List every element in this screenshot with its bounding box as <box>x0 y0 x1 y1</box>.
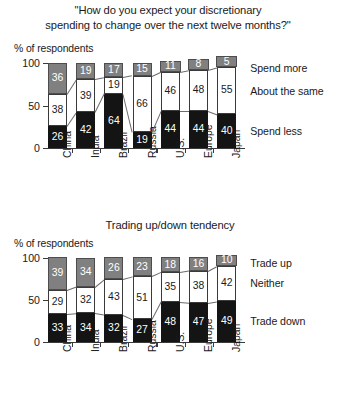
x-axis-label-china: China <box>62 131 73 158</box>
x-axis-label-brazil: Brazil <box>118 132 129 158</box>
connector-bottom-boundary <box>95 313 104 316</box>
chart-title-top: "How do you expect your discretionary sp… <box>0 3 340 32</box>
connector-top-boundary <box>208 266 218 272</box>
legend-label-top: Spend more <box>250 62 307 74</box>
segment-middle: 48 <box>189 70 208 111</box>
connector-top-boundary <box>180 70 189 73</box>
segment-middle: 35 <box>161 272 180 301</box>
segment-top: 23 <box>133 257 152 276</box>
x-axis-tick <box>72 343 73 347</box>
connector-top-boundary <box>123 76 132 79</box>
segment-top: 11 <box>160 61 181 72</box>
connector-top-boundary <box>151 72 161 77</box>
legend-label-top: Trade up <box>250 257 292 269</box>
y-axis-tick-label: 50 <box>28 294 40 306</box>
segment-top: 5 <box>216 56 237 67</box>
connector-top-boundary <box>95 77 104 80</box>
x-axis-label-japan: Japan <box>231 324 242 352</box>
segment-middle: 38 <box>189 271 208 303</box>
segment-top: 8 <box>188 59 209 70</box>
segment-middle: 66 <box>133 76 152 132</box>
y-axis-tick-label: 0 <box>34 336 40 348</box>
legend-label-middle: Neither <box>250 277 284 289</box>
connector-bottom-boundary <box>123 315 133 320</box>
segment-middle: 43 <box>104 279 123 315</box>
segment-top: 39 <box>48 257 67 290</box>
x-axis-tick <box>100 149 101 153</box>
connector-bottom-boundary <box>67 313 76 315</box>
segment-middle: 38 <box>48 94 67 126</box>
connector-bottom-boundary <box>208 301 217 304</box>
segment-middle: 42 <box>217 266 236 301</box>
connector-top-boundary <box>123 276 132 279</box>
chart-discretionary-spending: "How do you expect your discretionary sp… <box>0 0 340 196</box>
connector-top-boundary <box>67 79 77 94</box>
segment-top: 26 <box>104 257 123 279</box>
x-axis-tick <box>100 343 101 347</box>
y-axis-tick-label: 50 <box>28 100 40 112</box>
segment-top: 36 <box>48 63 67 94</box>
x-axis-tick <box>72 149 73 153</box>
connector-bottom-boundary <box>151 302 161 320</box>
plot-area-top: 050100363826China193942India171964Brazil… <box>48 63 245 148</box>
x-axis-label-japan: Japan <box>231 130 242 158</box>
segment-middle: 39 <box>76 79 95 112</box>
connector-bottom-boundary <box>208 111 218 115</box>
bar-us: 114644 <box>161 63 180 148</box>
connector-top-boundary <box>180 271 189 274</box>
connector-bottom-boundary <box>67 113 77 127</box>
legend-label-middle: About the same <box>250 85 324 97</box>
segment-top: 17 <box>104 63 123 77</box>
legend-label-bottom: Trade down <box>250 315 305 327</box>
segment-middle: 32 <box>76 287 95 314</box>
x-axis-tick <box>128 149 129 153</box>
segment-top: 16 <box>189 257 208 270</box>
segment-middle: 19 <box>104 77 123 93</box>
x-axis-tick <box>185 149 186 153</box>
segment-top: 18 <box>161 257 180 272</box>
x-axis-tick <box>128 343 129 347</box>
legend-label-bottom: Spend less <box>250 125 302 137</box>
chart-trading-tendency: Trading up/down tendency % of respondent… <box>0 196 340 393</box>
x-axis-tick <box>213 343 214 347</box>
bar-us: 183548 <box>161 258 180 342</box>
x-axis-tick <box>156 149 157 153</box>
segment-middle: 51 <box>133 276 152 319</box>
y-axis-caption-top: % of respondents <box>14 43 93 54</box>
segment-middle: 46 <box>161 72 180 111</box>
connector-bottom-boundary <box>180 302 189 304</box>
connector-top-boundary <box>95 279 105 287</box>
x-axis-label-russia: Russia <box>147 320 158 352</box>
plot-area-bottom: 050100392933China343234India264332Brazil… <box>48 258 245 342</box>
segment-middle: 55 <box>217 67 236 114</box>
connector-top-boundary <box>67 287 77 291</box>
connector-bottom-boundary <box>180 111 189 112</box>
connector-top-boundary <box>208 67 217 71</box>
y-axis-tick-label: 0 <box>34 142 40 154</box>
x-axis-label-us: U.S. <box>175 332 186 352</box>
segment-top: 10 <box>216 255 237 266</box>
segment-top: 19 <box>76 63 95 79</box>
connector-top-boundary <box>151 272 161 277</box>
y-axis-tick-label: 100 <box>22 252 40 264</box>
x-axis-tick <box>213 149 214 153</box>
y-axis-caption-bottom: % of respondents <box>14 238 93 249</box>
segment-middle: 29 <box>48 290 67 314</box>
x-axis-tick <box>185 343 186 347</box>
connector-bottom-boundary <box>123 94 133 132</box>
x-axis-label-india: India <box>90 135 101 158</box>
segment-top: 34 <box>76 258 95 287</box>
chart-title-bottom: Trading up/down tendency <box>0 218 340 233</box>
x-axis-label-china: China <box>62 325 73 352</box>
x-axis-tick <box>156 343 157 347</box>
x-axis-label-india: India <box>90 329 101 352</box>
connector-bottom-boundary <box>95 94 105 113</box>
x-axis-label-brazil: Brazil <box>118 326 129 352</box>
y-axis-tick-label: 100 <box>22 57 40 69</box>
segment-top: 15 <box>133 63 152 76</box>
x-axis-label-us: U.S. <box>175 138 186 158</box>
